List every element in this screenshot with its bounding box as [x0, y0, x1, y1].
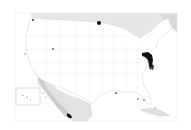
highlight-california-point — [24, 53, 25, 54]
highlight-gulf-point — [115, 92, 117, 94]
highlight-florida-point-1 — [137, 98, 139, 100]
map-container — [0, 0, 191, 130]
us-map — [0, 0, 191, 130]
highlight-colorado-point — [52, 48, 54, 50]
highlight-florida-point-2 — [143, 99, 145, 101]
highlight-washington-point — [32, 19, 34, 21]
highlight-minnesota-point — [97, 21, 101, 25]
inset-box — [16, 88, 40, 105]
highlight-florida-point-3 — [154, 107, 155, 108]
